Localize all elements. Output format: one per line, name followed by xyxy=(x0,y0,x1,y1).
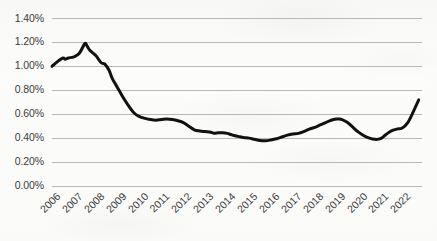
y-axis-tick-label: 0.40% xyxy=(0,131,44,143)
y-axis-tick-label: 1.00% xyxy=(0,59,44,71)
y-axis-tick-label: 0.80% xyxy=(0,83,44,95)
y-axis-tick-label: 0.60% xyxy=(0,107,44,119)
gridlines xyxy=(52,19,422,187)
line-chart: 0.00%0.20%0.40%0.60%0.80%1.00%1.20%1.40%… xyxy=(0,0,437,241)
y-axis-tick-label: 0.00% xyxy=(0,179,44,191)
y-axis-tick-label: 0.20% xyxy=(0,155,44,167)
series-line xyxy=(52,43,419,141)
y-axis-tick-label: 1.40% xyxy=(0,12,44,24)
y-axis-tick-label: 1.20% xyxy=(0,35,44,47)
data-series-group xyxy=(52,43,419,141)
